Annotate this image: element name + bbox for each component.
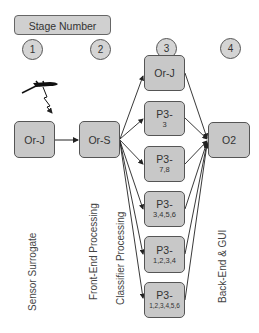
node-classifier-p3-1234: P3- 1,2,3,4 bbox=[144, 236, 185, 273]
stage-number-header: Stage Number bbox=[14, 15, 111, 35]
node-classifier-p3-123456: P3- 1,2,3,4,5,6 bbox=[144, 282, 185, 318]
node-classifier-orj: Or-J bbox=[144, 55, 185, 91]
node-sublabel: 3,4,5,6 bbox=[153, 210, 176, 220]
node-classifier-p3-3: P3- 3 bbox=[144, 101, 185, 136]
uav-aircraft-icon bbox=[22, 81, 58, 93]
node-label: Or-J bbox=[154, 67, 174, 79]
node-label: P3- bbox=[156, 244, 172, 256]
node-sensor-orj: Or-J bbox=[14, 121, 55, 158]
node-label: Or-J bbox=[24, 134, 44, 146]
node-sublabel: 3 bbox=[162, 120, 166, 130]
node-label: Or-S bbox=[88, 134, 110, 146]
node-sublabel: 1,2,3,4,5,6 bbox=[149, 301, 180, 311]
node-sublabel: 7,8 bbox=[159, 165, 169, 175]
node-o2: O2 bbox=[208, 122, 250, 158]
stage-circle-1: 1 bbox=[22, 39, 43, 60]
stage-circle-2: 2 bbox=[90, 39, 111, 60]
node-label: P3- bbox=[156, 198, 172, 210]
stage-label-classifier: Classifier Processing bbox=[115, 212, 126, 305]
node-ors: Or-S bbox=[79, 121, 120, 158]
node-label: P3- bbox=[156, 108, 172, 120]
stage-label-sensor-surrogate: Sensor Surrogate bbox=[27, 233, 38, 311]
node-label: P3- bbox=[156, 153, 172, 165]
node-classifier-p3-3456: P3- 3,4,5,6 bbox=[144, 191, 185, 227]
stage-label-front-end: Front-End Processing bbox=[88, 203, 99, 300]
stage-circle-4: 4 bbox=[220, 38, 241, 59]
node-label: O2 bbox=[222, 134, 236, 146]
node-classifier-p3-78: P3- 7,8 bbox=[144, 146, 185, 182]
node-sublabel: 1,2,3,4 bbox=[153, 256, 176, 266]
lightning-signal-icon bbox=[43, 87, 52, 113]
node-label: P3- bbox=[156, 289, 172, 301]
stage-label-back-end: Back-End & GUI bbox=[217, 230, 228, 303]
edges-classifiers-to-o2 bbox=[185, 73, 207, 300]
